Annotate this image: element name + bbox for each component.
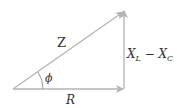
capacitive-subscript: C xyxy=(167,54,173,63)
phase-angle-label: ϕ xyxy=(45,72,53,85)
impedance-triangle-diagram: Z ϕ R XL − XC xyxy=(0,0,177,108)
impedance-vector xyxy=(13,12,123,89)
impedance-label: Z xyxy=(57,35,66,50)
reactance-label: XL − XC xyxy=(126,47,173,63)
capacitive-reactance-symbol: X xyxy=(158,47,168,61)
inductive-reactance-symbol: X xyxy=(126,47,136,61)
phase-angle-arc xyxy=(38,72,43,89)
resistance-label: R xyxy=(65,93,75,107)
minus-sign: − xyxy=(141,47,159,61)
